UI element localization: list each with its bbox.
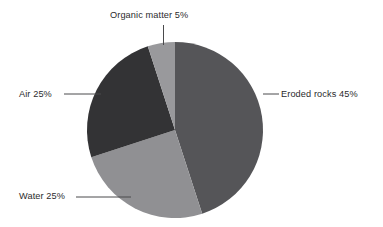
pie-slices	[87, 42, 263, 218]
pie-label-water: Water 25%	[19, 191, 65, 202]
pie-label-organic-matter: Organic matter 5%	[110, 10, 188, 21]
pie-chart: Organic matter 5% Eroded rocks 45% Air 2…	[0, 0, 383, 227]
pie-label-eroded-rocks: Eroded rocks 45%	[281, 89, 358, 100]
pie-label-air: Air 25%	[19, 89, 52, 100]
